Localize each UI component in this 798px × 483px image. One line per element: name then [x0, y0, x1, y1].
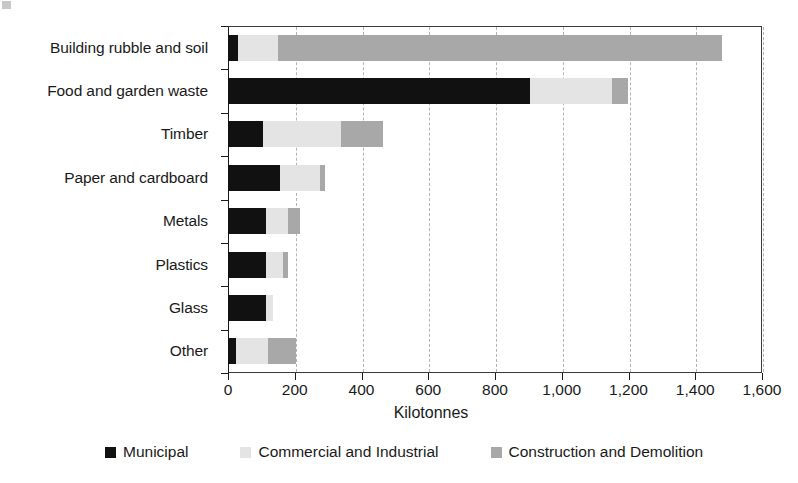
- x-axis-tick: [495, 373, 496, 380]
- stacked-bar[interactable]: [228, 338, 296, 364]
- bar-row: [228, 286, 762, 329]
- x-axis-tick: [562, 373, 563, 380]
- y-axis-tick: [221, 26, 228, 27]
- x-axis-tick: [362, 373, 363, 380]
- x-axis-title-text: Kilotonnes: [394, 404, 469, 421]
- y-axis-label: Building rubble and soil: [0, 26, 218, 69]
- x-axis-tick-label: 1,200: [609, 381, 648, 399]
- y-axis-label: Glass: [0, 286, 218, 329]
- x-axis-tick: [629, 373, 630, 380]
- x-axis-tick: [695, 373, 696, 380]
- stacked-bar[interactable]: [228, 165, 325, 191]
- legend-item[interactable]: Municipal: [105, 443, 188, 461]
- bar-row: [228, 156, 762, 199]
- bar-segment-commercial[interactable]: [266, 208, 288, 234]
- x-axis-tick-label: 800: [482, 381, 508, 399]
- y-axis-label: Food and garden waste: [0, 69, 218, 112]
- legend-swatch-icon: [491, 447, 502, 458]
- scan-artifact: [2, 1, 11, 9]
- bar-segment-construction[interactable]: [288, 208, 300, 234]
- x-axis-tick-label: 200: [282, 381, 308, 399]
- legend-item[interactable]: Construction and Demolition: [491, 443, 704, 461]
- legend-label: Commercial and Industrial: [258, 443, 438, 461]
- bar-segment-municipal[interactable]: [228, 252, 266, 278]
- x-axis-tick: [428, 373, 429, 380]
- bar-row: [228, 26, 762, 69]
- y-axis-label: Timber: [0, 113, 218, 156]
- x-axis-tick: [228, 369, 229, 380]
- bar-segment-municipal[interactable]: [228, 338, 236, 364]
- y-axis-tick: [221, 286, 228, 287]
- bar-segment-construction[interactable]: [268, 338, 296, 364]
- stacked-bar[interactable]: [228, 78, 628, 104]
- y-axis-label: Paper and cardboard: [0, 156, 218, 199]
- bar-segment-construction[interactable]: [612, 78, 629, 104]
- gridline: [763, 27, 764, 372]
- x-axis-tick-label: 0: [224, 381, 233, 399]
- bar-segment-construction[interactable]: [341, 121, 383, 147]
- bar-row: [228, 113, 762, 156]
- y-axis-tick: [221, 69, 228, 70]
- legend-swatch-icon: [240, 447, 251, 458]
- bar-segment-municipal[interactable]: [228, 208, 266, 234]
- y-axis-label: Plastics: [0, 243, 218, 286]
- stacked-bar[interactable]: [228, 295, 273, 321]
- legend-swatch-icon: [105, 447, 116, 458]
- y-axis-label: Metals: [0, 200, 218, 243]
- bar-row: [228, 200, 762, 243]
- y-axis-tick: [221, 373, 228, 374]
- y-axis-tick: [221, 330, 228, 331]
- bar-segment-construction[interactable]: [283, 252, 288, 278]
- bar-rows: [228, 26, 762, 373]
- bar-segment-construction[interactable]: [320, 165, 325, 191]
- y-axis-tick: [221, 156, 228, 157]
- y-axis-tick: [221, 243, 228, 244]
- stacked-bar[interactable]: [228, 208, 300, 234]
- x-axis-tick-label: 600: [415, 381, 441, 399]
- bar-segment-construction[interactable]: [278, 35, 722, 61]
- bar-segment-commercial[interactable]: [266, 252, 283, 278]
- stacked-bar[interactable]: [228, 121, 383, 147]
- x-axis-tick-label: 1,000: [542, 381, 581, 399]
- legend-label: Municipal: [123, 443, 188, 461]
- bar-segment-commercial[interactable]: [280, 165, 320, 191]
- y-axis-tick: [221, 113, 228, 114]
- x-axis-tick: [762, 373, 763, 380]
- bar-segment-municipal[interactable]: [228, 121, 263, 147]
- bar-segment-municipal[interactable]: [228, 165, 280, 191]
- x-axis-tick: [295, 373, 296, 380]
- x-axis-tick-label: 1,400: [676, 381, 715, 399]
- bar-segment-municipal[interactable]: [228, 35, 238, 61]
- y-axis-tick: [221, 200, 228, 201]
- bar-segment-commercial[interactable]: [238, 35, 278, 61]
- bar-row: [228, 69, 762, 112]
- bar-segment-municipal[interactable]: [228, 295, 266, 321]
- y-axis-labels: Building rubble and soilFood and garden …: [0, 26, 218, 373]
- bar-segment-municipal[interactable]: [228, 78, 530, 104]
- bar-segment-commercial[interactable]: [236, 338, 268, 364]
- chart-legend: MunicipalCommercial and IndustrialConstr…: [0, 443, 798, 461]
- waste-composition-chart: Building rubble and soilFood and garden …: [0, 0, 798, 483]
- bar-segment-commercial[interactable]: [266, 295, 273, 321]
- x-axis-tick-label: 400: [349, 381, 375, 399]
- bar-row: [228, 243, 762, 286]
- legend-label: Construction and Demolition: [509, 443, 704, 461]
- stacked-bar[interactable]: [228, 35, 722, 61]
- x-axis-title: Kilotonnes: [0, 404, 798, 422]
- x-axis-tick-label: 1,600: [743, 381, 782, 399]
- bar-segment-commercial[interactable]: [263, 121, 341, 147]
- bar-segment-commercial[interactable]: [530, 78, 612, 104]
- y-axis-label: Other: [0, 330, 218, 373]
- legend-item[interactable]: Commercial and Industrial: [240, 443, 438, 461]
- bar-row: [228, 330, 762, 373]
- stacked-bar[interactable]: [228, 252, 288, 278]
